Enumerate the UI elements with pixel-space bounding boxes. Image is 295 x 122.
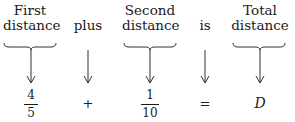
brace-total-distance — [233, 43, 285, 50]
fraction-bar — [141, 104, 159, 105]
brace-second-distance — [124, 43, 176, 50]
fraction-bar — [24, 104, 38, 105]
plus-sign: + — [80, 96, 96, 111]
brace-first-distance — [4, 43, 56, 50]
fraction-four-fifths: 4 5 — [24, 89, 38, 120]
numerator: 1 — [146, 89, 154, 102]
numerator: 4 — [27, 89, 35, 102]
denominator: 5 — [27, 107, 35, 120]
variable-d: D — [252, 95, 268, 111]
denominator: 10 — [142, 107, 157, 120]
equals-sign: = — [197, 96, 213, 111]
fraction-one-tenth: 1 10 — [141, 89, 159, 120]
